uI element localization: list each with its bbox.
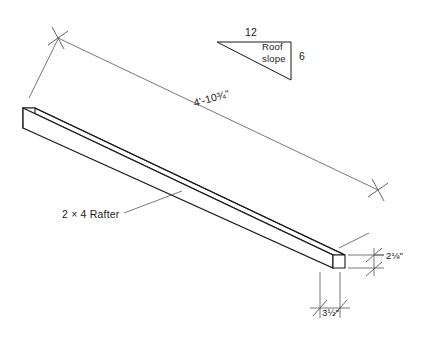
rafter-front-face (23, 108, 333, 268)
rafter-top-face (23, 108, 345, 255)
length-extension-line-right (339, 233, 369, 248)
length-dimension-line (58, 38, 378, 190)
length-tick-right-cross (372, 179, 384, 201)
end-depth-label: 2⅛" (386, 250, 403, 261)
rafter-member-label: 2 × 4 Rafter (62, 208, 120, 220)
slope-caption-line-2: slope (262, 53, 286, 64)
end-depth-dimension (348, 248, 384, 276)
rafter-drawing-canvas (0, 0, 428, 346)
rafter-back-top-edge (35, 108, 345, 255)
slope-caption-line-1: Roof (262, 41, 283, 52)
length-extension-line-left (29, 37, 59, 98)
slope-run-label: 12 (245, 26, 257, 38)
rafter-solid (23, 108, 345, 268)
rafter-right-end-face (333, 255, 345, 268)
member-callout-leader (124, 191, 182, 213)
slope-rise-label: 6 (299, 50, 305, 62)
end-width-label: 3½" (322, 307, 339, 318)
length-tick-left-cross (52, 27, 64, 49)
rafter-leader-line (124, 191, 182, 213)
